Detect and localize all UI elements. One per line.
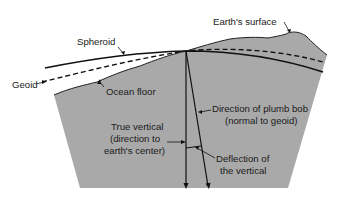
spheroid-label: Spheroid (77, 36, 115, 47)
geoid-diagram: Earth's surface Spheroid Geoid Ocean flo… (0, 0, 343, 201)
true-vertical-label-line1: True vertical (111, 121, 163, 132)
earths-surface-label: Earth's surface (213, 16, 277, 27)
deflection-label-line1: Deflection of (216, 153, 270, 164)
deflection-label-line2: the vertical (220, 165, 266, 176)
geoid-label: Geoid (12, 79, 38, 90)
ocean-floor-label: Ocean floor (106, 86, 156, 97)
true-vertical-label-line2: (direction to (110, 133, 160, 144)
plumb-bob-label-line1: Direction of plumb bob (212, 103, 308, 114)
true-vertical-label-line3: earth's center) (104, 145, 165, 156)
earths-surface-leader (284, 22, 289, 31)
plumb-bob-label-line2: (normal to geoid) (225, 115, 298, 126)
